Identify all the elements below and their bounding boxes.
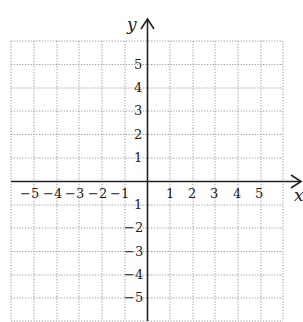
- x-tick-label: 3: [210, 186, 218, 201]
- y-tick-label: 2: [134, 127, 142, 142]
- y-tick-label: 1: [134, 197, 142, 212]
- y-tick-label: −3: [124, 244, 143, 259]
- y-tick-label: −4: [124, 267, 143, 282]
- y-tick-label: 4: [134, 80, 142, 95]
- y-tick-label: 1: [134, 150, 142, 165]
- x-axis-label: x: [294, 185, 303, 205]
- x-tick-label: 2: [188, 186, 196, 201]
- y-tick-label: 5: [134, 57, 142, 72]
- y-axis-label: y: [126, 14, 137, 34]
- x-tick-label: 1: [166, 186, 174, 201]
- x-tick-label: −3: [65, 186, 84, 201]
- x-tick-label: 4: [233, 186, 241, 201]
- x-tick-label: −1: [110, 186, 129, 201]
- x-tick-label: 5: [255, 186, 263, 201]
- y-tick-label: −2: [124, 220, 143, 235]
- y-tick-label: 3: [134, 103, 142, 118]
- coordinate-plane: y x −5 −4 −3 −2 −1 1 2 3 4 5 5 4 3 2 1 1…: [0, 0, 303, 322]
- x-tick-label: −4: [43, 186, 62, 201]
- y-tick-label: −5: [124, 290, 143, 305]
- x-tick-label: −5: [20, 186, 39, 201]
- x-tick-label: −2: [88, 186, 107, 201]
